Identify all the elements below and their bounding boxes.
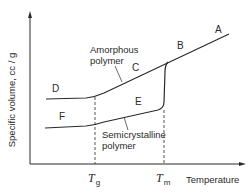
- amorphous-label-line2: polymer: [90, 56, 124, 66]
- y-axis-arrow-icon: [28, 11, 32, 18]
- x-axis-arrow-icon: [239, 162, 246, 166]
- amorphous-leader-line: [115, 66, 122, 82]
- tm-subscript: m: [164, 178, 171, 187]
- point-label-c: C: [132, 63, 139, 73]
- x-axis-label: Temperature: [186, 175, 239, 185]
- y-axis-label-text: Specific volume, cc / g: [6, 53, 17, 148]
- tm-label: Tm: [156, 172, 169, 184]
- point-label-b: B: [177, 41, 184, 51]
- y-axis-label: Specific volume, cc / g: [4, 40, 18, 160]
- tg-subscript: g: [96, 178, 100, 187]
- semicrystalline-label-line1: Semicrystalline: [102, 130, 166, 140]
- semicrystalline-label-line2: polymer: [102, 141, 136, 151]
- point-label-a: A: [215, 25, 222, 35]
- point-label-e: E: [135, 97, 142, 107]
- tm-symbol: T: [156, 171, 163, 185]
- point-label-d: D: [52, 84, 59, 94]
- amorphous-label-line1: Amorphous: [90, 45, 139, 55]
- tg-label: Tg: [88, 172, 99, 184]
- point-label-f: F: [59, 112, 65, 122]
- tg-symbol: T: [88, 171, 95, 185]
